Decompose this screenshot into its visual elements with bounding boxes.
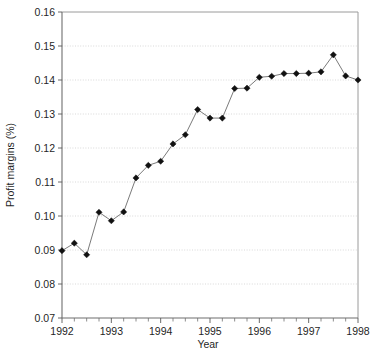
y-tick-label: 0.09 <box>35 244 56 256</box>
x-tick-label: 1997 <box>297 325 321 337</box>
y-tick-label: 0.13 <box>35 108 56 120</box>
y-tick-label: 0.14 <box>35 74 56 86</box>
chart-canvas: 0.160.150.140.130.120.110.100.090.080.07… <box>0 0 377 355</box>
y-tick-label: 0.16 <box>35 6 56 18</box>
y-axis-title: Profit margins (%) <box>4 123 16 207</box>
chart-background <box>0 0 377 355</box>
x-tick-label: 1998 <box>346 325 370 337</box>
y-tick-label: 0.08 <box>35 278 56 290</box>
x-tick-label: 1992 <box>50 325 74 337</box>
y-tick-label: 0.10 <box>35 210 56 222</box>
x-tick-label: 1993 <box>100 325 124 337</box>
y-tick-label: 0.07 <box>35 312 56 324</box>
y-tick-label: 0.11 <box>35 176 55 188</box>
x-axis-title: Year <box>197 338 219 350</box>
y-tick-label: 0.12 <box>35 142 56 154</box>
y-tick-label: 0.15 <box>35 40 56 52</box>
x-tick-label: 1996 <box>248 325 272 337</box>
x-tick-label: 1994 <box>149 325 173 337</box>
x-tick-label: 1995 <box>198 325 222 337</box>
profit-margins-chart: 0.160.150.140.130.120.110.100.090.080.07… <box>0 0 377 355</box>
